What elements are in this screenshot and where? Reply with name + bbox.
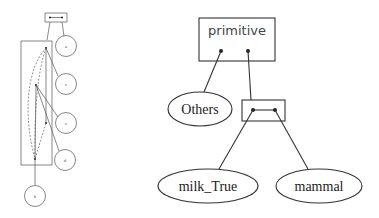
svg-text:a: a <box>65 44 68 49</box>
left-node-b: b <box>25 186 46 207</box>
edge-inner-mid-to-d <box>36 85 59 151</box>
milk-true-node: milk_True <box>158 169 258 203</box>
diagram-canvas: a c c d b primitive <box>0 0 379 218</box>
svg-text:c: c <box>65 82 68 87</box>
edge-inner-mid-to-c2 <box>36 85 58 117</box>
right-diagram: primitive Others milk_True <box>158 18 362 203</box>
left-node-c2: c <box>56 113 77 134</box>
edge-record-to-mammal <box>275 110 308 169</box>
left-top-record-port-left <box>49 17 51 19</box>
dashed-curve-outer <box>28 48 46 159</box>
left-diagram: a c c d b <box>21 13 77 207</box>
left-node-d: d <box>55 150 76 171</box>
edge-top-to-a <box>62 22 64 36</box>
mammal-node: mammal <box>276 169 362 203</box>
edge-record-to-milk-true <box>219 110 253 169</box>
left-node-c1: c <box>56 74 77 95</box>
svg-text:Others: Others <box>181 102 218 117</box>
dashed-curve-inner <box>35 48 46 159</box>
edge-primitive-to-record <box>248 51 251 100</box>
others-node: Others <box>168 92 232 126</box>
primitive-node: primitive <box>199 18 275 61</box>
edge-primitive-to-others <box>204 51 221 92</box>
svg-text:b: b <box>34 194 37 199</box>
svg-text:primitive: primitive <box>208 23 266 38</box>
left-node-a: a <box>56 36 77 57</box>
svg-text:mammal: mammal <box>295 179 344 194</box>
svg-text:milk_True: milk_True <box>179 179 238 194</box>
edge-top-to-cluster <box>47 22 50 40</box>
svg-text:c: c <box>65 121 68 126</box>
left-top-record-port-right <box>61 17 63 19</box>
svg-text:d: d <box>64 158 67 163</box>
edge-inner-lower-bottom <box>35 123 46 159</box>
